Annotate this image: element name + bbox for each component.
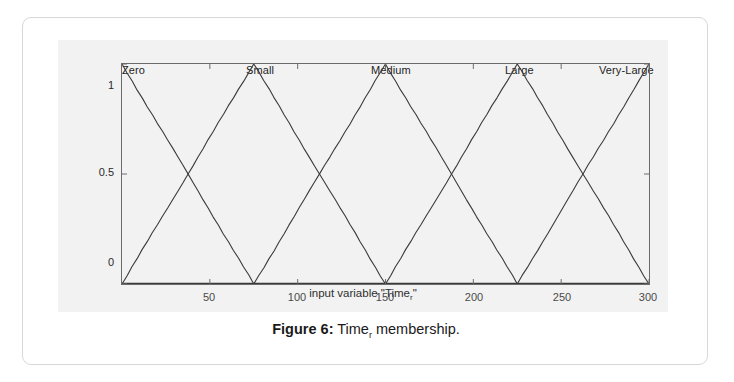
membership-curve-very-large — [122, 64, 649, 284]
y-tick-label-0: 0 — [88, 256, 114, 268]
x-axis-title: input variable "Timer" — [58, 287, 668, 299]
y-tick-label-1: 1 — [88, 79, 114, 91]
x-axis-title-sub: r — [410, 293, 413, 302]
membership-curve-zero — [122, 64, 649, 284]
plot-frame — [121, 63, 650, 285]
figure-caption-pre: Time — [333, 321, 368, 337]
membership-curve-large — [122, 64, 649, 284]
figure-caption: Figure 6: Timer membership. — [23, 321, 709, 337]
figure-page: Zero Small Medium Large Very-Large 1 0.5… — [0, 0, 734, 382]
figure-caption-post: membership. — [372, 321, 460, 337]
y-tick-label-0-5: 0.5 — [80, 166, 114, 178]
figure-caption-number: Figure 6: — [272, 321, 333, 337]
membership-curve-small — [122, 64, 649, 284]
figure-card: Zero Small Medium Large Very-Large 1 0.5… — [22, 17, 708, 365]
figure-caption-sub: r — [369, 330, 372, 340]
figure-image: Zero Small Medium Large Very-Large 1 0.5… — [58, 40, 668, 312]
x-axis-title-pre: input variable "Time — [309, 287, 410, 299]
x-axis-title-post: " — [413, 287, 417, 299]
membership-curves — [122, 64, 649, 284]
membership-curve-medium — [122, 64, 649, 284]
